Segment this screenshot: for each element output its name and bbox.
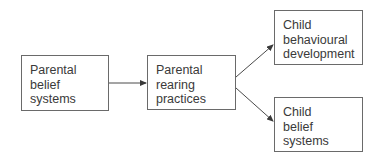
node-label-line: belief [30, 78, 108, 93]
node-label-line: practices [156, 92, 235, 107]
edge-rearing-practices-to-child-belief [236, 88, 273, 121]
node-label-line: rearing [156, 78, 235, 93]
node-label-line: Child [283, 105, 362, 120]
node-parental-rearing-practices: Parental rearing practices [147, 55, 236, 110]
node-child-behavioural-development: Child behavioural development [274, 10, 363, 65]
node-label-line: Child [283, 18, 362, 33]
node-label-line: Parental [30, 63, 108, 78]
node-parental-belief-systems: Parental belief systems [21, 55, 109, 111]
node-label-line: development [283, 47, 362, 62]
node-label-line: belief [283, 120, 362, 135]
diagram-canvas: Parental belief systems Parental rearing… [0, 0, 376, 160]
node-child-belief-systems: Child belief systems [274, 97, 363, 152]
node-label-line: systems [283, 134, 362, 149]
edge-rearing-practices-to-behavioural-development [236, 45, 273, 77]
node-label-line: Parental [156, 63, 235, 78]
node-label-line: systems [30, 92, 108, 107]
node-label-line: behavioural [283, 33, 362, 48]
